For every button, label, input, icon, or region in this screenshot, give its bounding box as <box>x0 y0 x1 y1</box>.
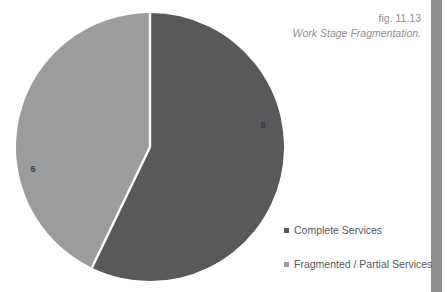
legend-item-fragmented-services[interactable]: Fragmented / Partial Services <box>284 258 434 270</box>
chart-legend: Complete Services Fragmented / Partial S… <box>284 224 434 292</box>
figure-page: fig. 11.13 Work Stage Fragmentation. 8 6… <box>0 0 447 292</box>
figure-title: Work Stage Fragmentation. <box>261 26 421 41</box>
legend-label-fragmented-services: Fragmented / Partial Services <box>294 258 432 270</box>
pie-slice-label-complete-services: 8 <box>260 120 265 130</box>
pie-chart-svg: 8 6 <box>16 13 284 281</box>
figure-number: fig. 11.13 <box>261 11 421 26</box>
pie-slice-label-fragmented-services: 6 <box>30 164 35 174</box>
legend-label-complete-services: Complete Services <box>294 224 382 236</box>
legend-swatch-fragmented-services <box>284 262 289 267</box>
legend-swatch-complete-services <box>284 228 289 233</box>
pie-chart: 8 6 <box>16 13 284 281</box>
legend-item-complete-services[interactable]: Complete Services <box>284 224 434 236</box>
figure-caption: fig. 11.13 Work Stage Fragmentation. <box>261 11 421 41</box>
